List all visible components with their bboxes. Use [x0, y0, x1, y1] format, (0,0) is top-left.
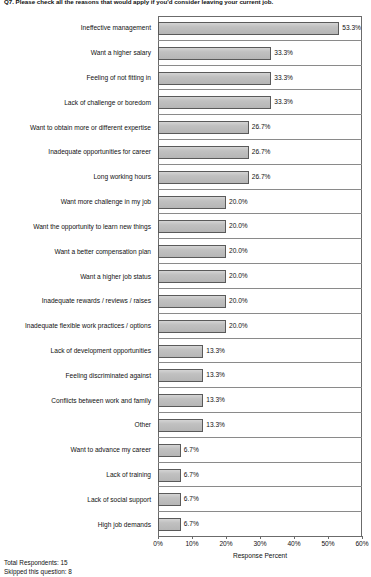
- bar-row: 26.7%: [158, 165, 362, 190]
- bar: [158, 146, 249, 159]
- bar-value-label: 20.0%: [229, 246, 248, 256]
- category-label: High job demands: [0, 520, 154, 530]
- bar-row: 13.3%: [158, 363, 362, 388]
- bar-row: 20.0%: [158, 190, 362, 215]
- category-label: Feeling of not fitting in: [0, 73, 154, 83]
- category-label: Lack of training: [0, 470, 154, 480]
- bar-row: 13.3%: [158, 339, 362, 364]
- bar-value-label: 6.7%: [184, 470, 199, 480]
- bar-row: 20.0%: [158, 239, 362, 264]
- bar-value-label: 13.3%: [206, 420, 225, 430]
- bar-value-label: 13.3%: [206, 395, 225, 405]
- bar: [158, 469, 181, 482]
- bar: [158, 196, 226, 209]
- category-axis: Ineffective managementWant a higher sala…: [0, 16, 154, 537]
- category-label: Want a higher salary: [0, 48, 154, 58]
- x-tick-label: 50%: [321, 539, 334, 549]
- category-label: Lack of development opportunities: [0, 346, 154, 356]
- bar: [158, 369, 203, 382]
- bar-row: 6.7%: [158, 463, 362, 488]
- x-tick-label: 40%: [287, 539, 300, 549]
- bar: [158, 320, 226, 333]
- bar-row: 33.3%: [158, 66, 362, 91]
- bar: [158, 171, 249, 184]
- category-label: Conflicts between work and family: [0, 396, 154, 406]
- bar-value-label: 6.7%: [184, 519, 199, 529]
- bar: [158, 419, 203, 432]
- bar-value-label: 33.3%: [274, 97, 293, 107]
- bar: [158, 96, 271, 109]
- bar-row: 6.7%: [158, 438, 362, 463]
- category-label: Want to advance my career: [0, 445, 154, 455]
- x-tick-label: 10%: [185, 539, 198, 549]
- bar: [158, 270, 226, 283]
- bar: [158, 220, 226, 233]
- bar-value-label: 53.3%: [342, 23, 361, 33]
- bar-row: 26.7%: [158, 115, 362, 140]
- category-label: Inadequate flexible work practices / opt…: [0, 321, 154, 331]
- bar-row: 20.0%: [158, 314, 362, 339]
- bar: [158, 518, 181, 531]
- bar-value-label: 20.0%: [229, 197, 248, 207]
- x-axis-ticks: 0%10%20%30%40%50%60%: [0, 539, 371, 551]
- bar-value-label: 6.7%: [184, 445, 199, 455]
- bar-series: 53.3%33.3%33.3%33.3%26.7%26.7%26.7%20.0%…: [158, 16, 362, 537]
- bar-row: 53.3%: [158, 16, 362, 41]
- bar-row: 20.0%: [158, 214, 362, 239]
- bar: [158, 245, 226, 258]
- total-respondents: Total Respondents: 15: [4, 558, 72, 567]
- category-label: Ineffective management: [0, 23, 154, 33]
- bar-value-label: 20.0%: [229, 296, 248, 306]
- bar-value-label: 20.0%: [229, 271, 248, 281]
- category-label: Lack of challenge or boredom: [0, 98, 154, 108]
- chart-title: Q7. Please check all the reasons that wo…: [4, 0, 369, 6]
- bar-row: 6.7%: [158, 512, 362, 537]
- bar-row: 20.0%: [158, 264, 362, 289]
- bar: [158, 72, 271, 85]
- bar-value-label: 26.7%: [252, 172, 271, 182]
- bar: [158, 47, 271, 60]
- category-label: Feeling discriminated against: [0, 371, 154, 381]
- bar-value-label: 20.0%: [229, 221, 248, 231]
- bar-row: 33.3%: [158, 90, 362, 115]
- category-label: Other: [0, 420, 154, 430]
- bar-row: 33.3%: [158, 41, 362, 66]
- bar-row: 20.0%: [158, 289, 362, 314]
- bar-value-label: 33.3%: [274, 48, 293, 58]
- bar: [158, 295, 226, 308]
- chart-footer: Total Respondents: 15 Skipped this quest…: [4, 558, 72, 577]
- x-tick-label: 0%: [153, 539, 163, 549]
- category-label: Inadequate rewards / reviews / raises: [0, 296, 154, 306]
- category-label: Want more challenge in my job: [0, 197, 154, 207]
- bar-row: 6.7%: [158, 487, 362, 512]
- category-label: Lack of social support: [0, 495, 154, 505]
- bar: [158, 22, 339, 35]
- bar-value-label: 13.3%: [206, 346, 225, 356]
- bar-value-label: 20.0%: [229, 321, 248, 331]
- x-tick-label: 30%: [253, 539, 266, 549]
- x-tick-label: 20%: [219, 539, 232, 549]
- bar-row: 13.3%: [158, 413, 362, 438]
- category-label: Want a better compensation plan: [0, 247, 154, 257]
- x-axis-label: Response Percent: [158, 551, 362, 561]
- x-tick-label: 60%: [355, 539, 368, 549]
- bar-value-label: 6.7%: [184, 494, 199, 504]
- bar: [158, 345, 203, 358]
- bar: [158, 121, 249, 134]
- skipped-question: Skipped this question: 8: [4, 567, 72, 576]
- bar-row: 13.3%: [158, 388, 362, 413]
- bar-value-label: 26.7%: [252, 147, 271, 157]
- bar-value-label: 26.7%: [252, 122, 271, 132]
- category-label: Want the opportunity to learn new things: [0, 222, 154, 232]
- category-label: Long working hours: [0, 172, 154, 182]
- bar-row: 26.7%: [158, 140, 362, 165]
- bar: [158, 493, 181, 506]
- bar: [158, 394, 203, 407]
- bar-value-label: 13.3%: [206, 370, 225, 380]
- category-label: Want to obtain more or different experti…: [0, 123, 154, 133]
- category-label: Inadequate opportunities for career: [0, 147, 154, 157]
- bar-value-label: 33.3%: [274, 73, 293, 83]
- category-label: Want a higher job status: [0, 272, 154, 282]
- bar: [158, 444, 181, 457]
